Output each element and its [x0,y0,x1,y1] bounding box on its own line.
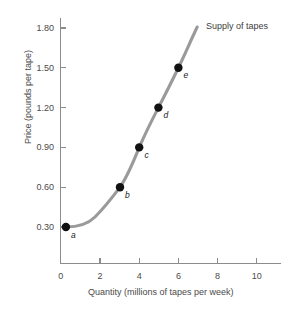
data-point-e [174,64,182,72]
y-axis-title: Price (pounds per tape) [24,50,33,144]
y-tick-label-6: 0.30 [18,223,54,232]
data-point-label-d: d [164,111,169,120]
data-point-a [62,223,70,231]
supply-curve-path [66,27,197,227]
x-tick-label-2: 2 [90,272,110,281]
supply-curve-chart: 1.80 1.50 1.20 0.90 0.60 0.30 0 2 4 6 8 … [0,0,294,310]
data-point-label-e: e [184,71,189,80]
data-point-d [154,103,162,111]
y-tick-label-5: 0.60 [18,183,54,192]
data-point-b [116,183,124,191]
data-points [62,64,183,232]
y-tick-label-4: 0.90 [18,143,54,152]
supply-curve-annotation: Supply of tapes [206,22,268,31]
data-point-label-a: a [71,231,76,240]
y-axis-ticks [61,28,67,227]
x-tick-label-6: 10 [247,272,267,281]
x-tick-label-3: 4 [129,272,149,281]
x-axis-ticks [100,258,257,264]
x-tick-label-5: 8 [208,272,228,281]
x-tick-label-4: 6 [168,272,188,281]
x-tick-label-1: 0 [51,272,71,281]
y-tick-label-1: 1.80 [18,24,54,33]
data-point-label-c: c [145,151,149,160]
data-point-label-b: b [125,191,130,200]
x-axis-title: Quantity (millions of tapes per week) [88,288,234,297]
data-point-c [135,143,143,151]
